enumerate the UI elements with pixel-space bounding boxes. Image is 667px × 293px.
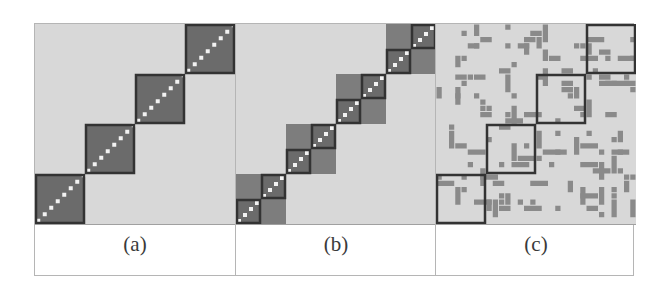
matrix-c-graphic xyxy=(436,24,636,224)
panel-c: (c) xyxy=(435,24,635,276)
panel-label-b: (b) xyxy=(236,225,436,276)
panel-a: (a) xyxy=(35,24,235,276)
panel-label-a: (a) xyxy=(35,225,235,276)
figure: (a) (b) (c) xyxy=(34,23,634,276)
matrix-b-graphic xyxy=(236,24,436,224)
panel-label-c: (c) xyxy=(436,225,636,276)
panel-b: (b) xyxy=(235,24,435,276)
matrix-a-graphic xyxy=(35,24,235,224)
matrix-c xyxy=(436,24,636,225)
matrix-a xyxy=(35,24,235,225)
matrix-b xyxy=(236,24,436,225)
